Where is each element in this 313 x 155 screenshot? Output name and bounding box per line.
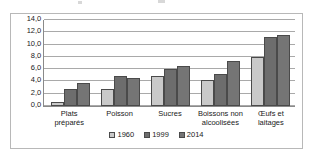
bar[interactable] [151,76,164,106]
y-axis-tick-label: 2,0 [31,89,41,97]
bar[interactable] [127,78,140,106]
bar[interactable] [51,102,64,106]
bar[interactable] [77,83,90,106]
plot-area: 0,02,04,06,08,010,012,014,0 [43,20,295,107]
bar[interactable] [64,89,77,106]
y-axis-tick-label: 8,0 [31,52,41,60]
y-axis-tick-label: 4,0 [31,77,41,85]
chart-figure: 0,02,04,06,08,010,012,014,0 Platspréparé… [10,13,303,149]
bar[interactable] [114,76,127,106]
x-axis-category-labels: PlatspréparésPoissonSucresBoissons nonal… [44,109,296,127]
x-axis-label: Sucres [145,109,195,127]
bar[interactable] [277,35,290,106]
legend-item-1960[interactable]: 1960 [109,131,134,139]
x-axis-label: Boissons nonalcoolisées [195,109,245,127]
legend-item-2014[interactable]: 2014 [179,131,204,139]
legend-swatch-icon [109,132,115,138]
y-axis-tick-label: 14,0 [27,15,41,23]
bar[interactable] [164,69,177,106]
legend-label: 1999 [152,131,169,139]
bar-group [45,20,95,106]
y-axis-tick-label: 10,0 [27,40,41,48]
bars-layer [45,20,295,106]
bar-group [195,20,245,106]
bar[interactable] [264,37,277,106]
y-axis-tick-label: 0,0 [31,101,41,109]
bar[interactable] [201,80,214,106]
cropped-text-artifact [0,0,313,9]
x-axis-label: Poisson [94,109,144,127]
bar[interactable] [251,57,264,106]
x-axis-label: Œufs etlaitages [246,109,296,127]
x-axis-label: Platspréparés [44,109,94,127]
bar[interactable] [101,89,114,106]
legend-item-1999[interactable]: 1999 [144,131,169,139]
bar-group [95,20,145,106]
legend-swatch-icon [144,132,150,138]
bar[interactable] [177,66,190,106]
y-axis-tick-label: 12,0 [27,28,41,36]
bar-group [245,20,295,106]
bar[interactable] [227,61,240,106]
bar[interactable] [214,74,227,106]
legend-label: 1960 [117,131,134,139]
chart-legend: 196019992014 [11,131,302,139]
bar-group [145,20,195,106]
legend-swatch-icon [179,132,185,138]
legend-label: 2014 [187,131,204,139]
y-axis-tick-label: 6,0 [31,64,41,72]
